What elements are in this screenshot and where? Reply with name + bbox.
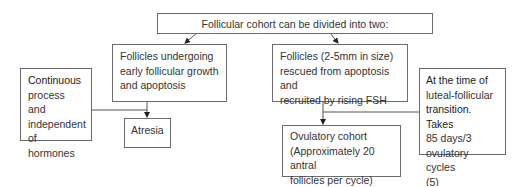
branch-left-line: and apoptosis <box>120 78 219 93</box>
note-right-line: (5) <box>426 175 499 187</box>
branch-right-line: rescued from apoptosis and <box>280 64 400 93</box>
arrow-root-to-right <box>330 33 338 43</box>
atresia-box: Atresia <box>124 118 171 148</box>
note-right-line: transition. Takes <box>426 102 499 131</box>
note-left-line: of hormones <box>28 131 84 160</box>
note-right-line: At the time of <box>426 73 499 88</box>
branch-left-box: Follicles undergoing early follicular gr… <box>112 44 227 102</box>
root-text: Follicular cohort can be divided into tw… <box>158 17 432 32</box>
note-left-line: process and <box>28 88 84 117</box>
root-box: Follicular cohort can be divided into tw… <box>157 13 433 34</box>
note-left-box: Continuous process and independent of ho… <box>20 68 92 141</box>
branch-right-line: recruited by rising FSH <box>280 93 400 108</box>
branch-left-line: early follicular growth <box>120 64 219 79</box>
note-right-box: At the time of luteal-follicular transit… <box>419 68 506 155</box>
note-right-line: ovulatory cycles <box>426 146 499 175</box>
note-left-line: independent <box>28 117 84 132</box>
note-left-line: Continuous <box>28 73 84 88</box>
atresia-text: Atresia <box>131 123 164 138</box>
ovulatory-line: follicles per cycle) <box>290 173 393 187</box>
note-right-line: luteal-follicular <box>426 88 499 103</box>
note-right-line: 85 days/3 <box>426 131 499 146</box>
arrow-root-to-left <box>185 33 197 43</box>
branch-right-box: Follicles (2-5mm in size) rescued from a… <box>272 44 408 102</box>
branch-right-line: Follicles (2-5mm in size) <box>280 49 400 64</box>
ovulatory-cohort-box: Ovulatory cohort (Approximately 20 antra… <box>282 125 401 177</box>
ovulatory-line: Ovulatory cohort <box>290 129 393 144</box>
branch-left-line: Follicles undergoing <box>120 49 219 64</box>
ovulatory-line: (Approximately 20 antral <box>290 144 393 173</box>
